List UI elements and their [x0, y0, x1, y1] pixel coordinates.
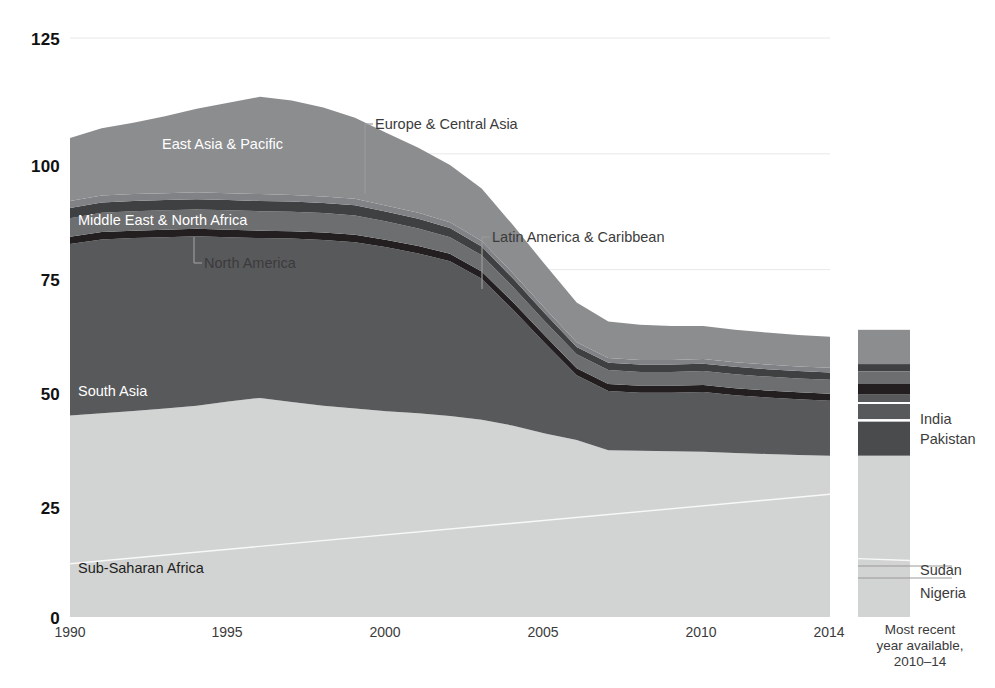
area-label-sub-saharan-africa: Sub-Saharan Africa [78, 560, 204, 576]
side-bar-segment-sub-saharan-africa [858, 456, 910, 617]
side-bar-segment-east-asia-pacific [858, 330, 910, 364]
area-label-south-asia: South Asia [78, 383, 147, 399]
stacked-areas [70, 97, 830, 617]
side-bar-label-nigeria: Nigeria [920, 585, 966, 601]
callout-label-north-america: North America [204, 255, 296, 271]
side-bar-segment-pakistan [858, 422, 910, 456]
side-bar-segment-europe-central-asia [858, 364, 910, 371]
stacked-area-chart-figure: 125 100 75 50 25 0 1990 1995 2000 2005 2… [0, 0, 995, 688]
area-label-east-asia-pacific: East Asia & Pacific [162, 136, 283, 152]
side-bar-label-sudan: Sudan [920, 562, 962, 578]
side-bar-label-pakistan: Pakistan [920, 431, 976, 447]
area-label-middle-east-north-africa: Middle East & North Africa [78, 212, 247, 228]
callout-label-europe-central-asia: Europe & Central Asia [375, 116, 518, 132]
side-bar-segment-latin-america-caribbean [858, 372, 910, 384]
side-bar-column [858, 330, 910, 617]
side-bar-caption: Most recent year available, 2010–14 [845, 622, 995, 670]
side-bar-segment-middle-east-north-africa [858, 384, 910, 395]
side-bar-segment-north-america [858, 395, 910, 402]
side-bar-segment-india [858, 404, 910, 419]
callout-label-latin-america-caribbean: Latin America & Caribbean [492, 229, 665, 245]
plot-area [0, 0, 995, 688]
side-bar-label-india: India [920, 411, 951, 427]
